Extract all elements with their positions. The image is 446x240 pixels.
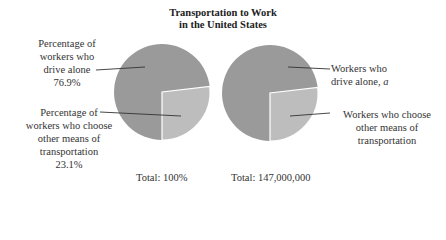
right-drive-alone-label: Workers who drive alone, a: [331, 62, 401, 88]
label-text: drive alone,: [331, 76, 381, 87]
label-line: other means of: [331, 121, 443, 134]
label-line: transportation: [8, 145, 130, 158]
label-line: other means of: [8, 132, 130, 145]
right-other-means-label: Workers who choose other means of transp…: [331, 108, 443, 147]
right-total: Total: 147,000,000: [231, 172, 310, 183]
other-means-value: 23.1%: [8, 158, 130, 171]
left-other-means-label: Percentage of workers who choose other m…: [8, 106, 130, 171]
left-pie-other-slice: [162, 86, 210, 140]
label-line: Percentage of: [22, 37, 112, 50]
variable-a: a: [383, 76, 388, 87]
label-line: workers who choose: [8, 119, 130, 132]
label-line: Workers who: [331, 62, 401, 75]
label-line: workers who: [22, 50, 112, 63]
drive-alone-value: 76.9%: [22, 76, 112, 89]
label-line: Percentage of: [8, 106, 130, 119]
left-drive-alone-label: Percentage of workers who drive alone 76…: [22, 37, 112, 89]
label-line: transportation: [331, 134, 443, 147]
right-pie: [222, 45, 318, 141]
label-line: Workers who choose: [331, 108, 443, 121]
label-line: drive alone: [22, 63, 112, 76]
left-total: Total: 100%: [136, 172, 187, 183]
label-line: drive alone, a: [331, 75, 401, 88]
